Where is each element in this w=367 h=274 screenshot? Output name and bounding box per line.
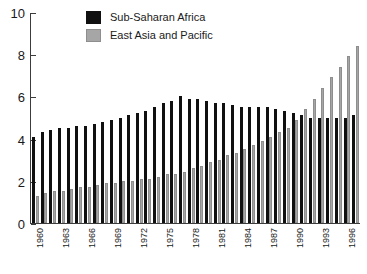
bar-sub-saharan-africa <box>326 118 329 224</box>
bar-sub-saharan-africa <box>300 115 303 223</box>
x-tick-slot <box>195 226 204 272</box>
bar-group <box>221 13 230 223</box>
bar-east-asia-and-pacific <box>287 128 290 223</box>
bar-group <box>118 13 127 223</box>
bar-group <box>291 13 300 223</box>
bar-east-asia-and-pacific <box>261 141 264 223</box>
bar-sub-saharan-africa <box>318 118 321 224</box>
bar-group <box>170 13 179 223</box>
bar-east-asia-and-pacific <box>157 177 160 223</box>
bar-sub-saharan-africa <box>144 111 147 223</box>
bar-east-asia-and-pacific <box>347 56 350 223</box>
bar-group <box>135 13 144 223</box>
bar-east-asia-and-pacific <box>278 132 281 223</box>
bar-group <box>152 13 161 223</box>
bar-east-asia-and-pacific <box>192 168 195 223</box>
bar-east-asia-and-pacific <box>62 191 65 223</box>
bar-east-asia-and-pacific <box>183 172 186 223</box>
bar-sub-saharan-africa <box>266 107 269 223</box>
x-tick-slot: 1993 <box>317 226 326 272</box>
x-tick-slot <box>256 226 265 272</box>
bar-group <box>325 13 334 223</box>
x-tick-slot: 1975 <box>161 226 170 272</box>
x-tick-slot <box>230 226 239 272</box>
bar-group <box>144 13 153 223</box>
y-tick-label: 2 <box>18 174 25 189</box>
bar-east-asia-and-pacific <box>53 191 56 223</box>
bar-sub-saharan-africa <box>136 113 139 223</box>
x-tick-slot <box>170 226 179 272</box>
y-tick-label: 0 <box>18 217 25 232</box>
bar-sub-saharan-africa <box>292 113 295 223</box>
x-tick-slot <box>334 226 343 272</box>
y-tick: 0 <box>30 224 36 225</box>
x-axis-line <box>30 223 360 224</box>
bar-group <box>178 13 187 223</box>
bar-sub-saharan-africa <box>214 103 217 223</box>
bar-group <box>31 13 40 223</box>
bar-east-asia-and-pacific <box>70 189 73 223</box>
bar-east-asia-and-pacific <box>226 155 229 223</box>
bar-group <box>109 13 118 223</box>
bar-sub-saharan-africa <box>248 107 251 223</box>
bar-series-container <box>31 13 360 223</box>
x-tick-slot <box>308 226 317 272</box>
x-tick-slot <box>204 226 213 272</box>
bar-sub-saharan-africa <box>352 115 355 223</box>
bar-sub-saharan-africa <box>127 115 130 223</box>
x-tick-slot: 1981 <box>213 226 222 272</box>
x-tick-slot: 1966 <box>83 226 92 272</box>
bar-east-asia-and-pacific <box>235 153 238 223</box>
bar-east-asia-and-pacific <box>218 160 221 223</box>
bar-sub-saharan-africa <box>84 126 87 223</box>
bar-sub-saharan-africa <box>58 128 61 223</box>
bar-group <box>343 13 352 223</box>
bar-east-asia-and-pacific <box>200 166 203 223</box>
bar-sub-saharan-africa <box>309 118 312 224</box>
bar-group <box>334 13 343 223</box>
bar-sub-saharan-africa <box>101 122 104 223</box>
x-tick-slot: 1963 <box>57 226 66 272</box>
bar-group <box>256 13 265 223</box>
x-tick-slot <box>282 226 291 272</box>
x-tick-slot <box>100 226 109 272</box>
bar-east-asia-and-pacific <box>96 185 99 223</box>
bar-east-asia-and-pacific <box>174 174 177 223</box>
bar-east-asia-and-pacific <box>269 137 272 224</box>
x-tick-slot <box>351 226 360 272</box>
x-tick-slot: 1990 <box>291 226 300 272</box>
bar-sub-saharan-africa <box>335 118 338 224</box>
bar-sub-saharan-africa <box>283 111 286 223</box>
bar-group <box>83 13 92 223</box>
bar-group <box>239 13 248 223</box>
x-tick-slot: 1960 <box>31 226 40 272</box>
y-tick-label: 10 <box>11 6 25 21</box>
bar-sub-saharan-africa <box>240 107 243 223</box>
x-tick-slot <box>178 226 187 272</box>
bar-group <box>282 13 291 223</box>
chart-figure: Sub-Saharan Africa East Asia and Pacific… <box>0 0 367 274</box>
x-tick-slot <box>221 226 230 272</box>
bar-group <box>57 13 66 223</box>
x-tick-slot: 1969 <box>109 226 118 272</box>
bar-sub-saharan-africa <box>222 103 225 223</box>
bar-east-asia-and-pacific <box>243 149 246 223</box>
x-tick-slot <box>126 226 135 272</box>
bar-sub-saharan-africa <box>75 126 78 223</box>
bar-east-asia-and-pacific <box>313 99 316 223</box>
bar-sub-saharan-africa <box>49 130 52 223</box>
x-tick-slot: 1987 <box>265 226 274 272</box>
bar-group <box>187 13 196 223</box>
bar-group <box>247 13 256 223</box>
bar-east-asia-and-pacific <box>140 179 143 223</box>
x-tick-slot <box>118 226 127 272</box>
bar-sub-saharan-africa <box>110 120 113 223</box>
bar-east-asia-and-pacific <box>36 196 39 223</box>
bar-east-asia-and-pacific <box>44 193 47 223</box>
bar-group <box>100 13 109 223</box>
x-axis-labels: 1960196319661969197219751978198119841987… <box>31 226 360 272</box>
bar-group <box>351 13 360 223</box>
bar-east-asia-and-pacific <box>295 120 298 223</box>
bar-sub-saharan-africa <box>257 107 260 223</box>
bar-sub-saharan-africa <box>231 105 234 223</box>
